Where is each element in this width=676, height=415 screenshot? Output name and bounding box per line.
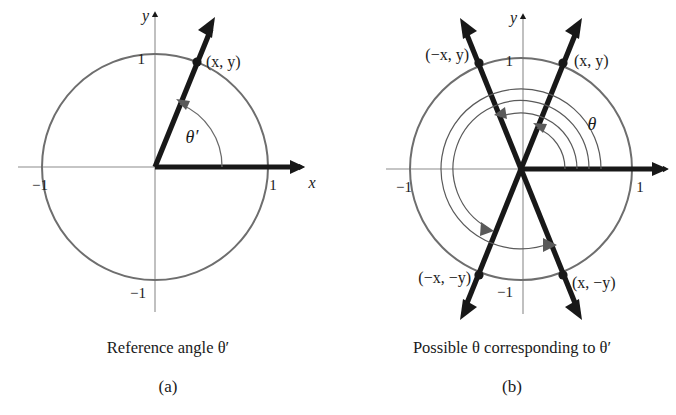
panel-b-tick-x-pos: 1 [636,179,644,195]
panel-a-tick-y-neg: −1 [130,285,146,301]
panel-a-angle-label: θ′ [186,127,200,147]
panel-a-terminal-point-dot [192,57,201,66]
panel-b-point-negx-negy-dot [474,270,483,279]
panel-b-tick-x-neg: −1 [396,179,412,195]
panel-a-tick-x-pos: 1 [269,177,277,193]
panel-b-id-label: (b) [502,377,522,396]
panel-a-caption: Reference angle θ′ [107,338,229,357]
panel-a-y-axis-label: y [140,7,150,25]
panel-b-point-x-negy-dot [558,270,567,279]
panel-b-y-axis-label: y [508,9,518,27]
panel-b-point-negx-negy-label: (−x, −y) [418,269,471,287]
panel-a-x-axis-label: x [307,174,315,191]
figure-canvas: y x 1 −1 1 −1 (x, y) θ′ Reference angle … [0,0,676,415]
panel-b-tick-y-pos: 1 [506,53,514,69]
panel-b-angle-label: θ [588,114,597,134]
panel-b-point-xy-label: (x, y) [574,52,609,70]
panel-b-caption: Possible θ corresponding to θ′ [413,338,611,357]
panel-b-tick-y-neg: −1 [497,284,513,300]
panel-b-point-x-negy-label: (x, −y) [572,274,616,292]
panel-b-point-negx-y-label: (−x, y) [425,46,469,64]
panel-b-point-negx-y-dot [474,58,483,67]
panel-a-tick-x-neg: −1 [32,177,48,193]
panel-a-id-label: (a) [159,377,178,396]
panel-a-point-xy-label: (x, y) [206,53,241,71]
trigonometry-figure: y x 1 −1 1 −1 (x, y) θ′ Reference angle … [0,0,676,415]
panel-a-tick-y-pos: 1 [138,51,146,67]
panel-b-point-xy-dot [558,58,567,67]
